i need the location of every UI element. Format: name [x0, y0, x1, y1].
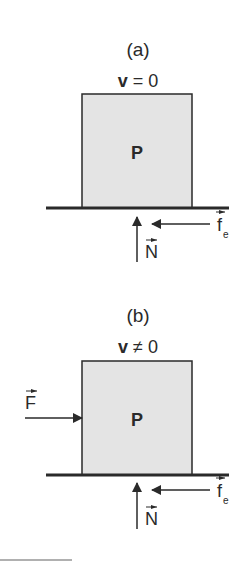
velocity-relation: ≠ 0	[128, 337, 158, 357]
svg-text:e: e	[223, 229, 229, 240]
panel-a-velocity-label: v = 0	[118, 71, 159, 91]
panel-b-velocity-label: v ≠ 0	[118, 337, 158, 357]
panel-b-caption: (b)	[126, 305, 149, 326]
normal-force-label: N	[145, 240, 158, 262]
svg-text:F: F	[25, 393, 36, 413]
svg-text:e: e	[223, 495, 229, 506]
svg-text:N: N	[145, 242, 158, 262]
block-label: P	[131, 143, 143, 163]
panel-a-caption: (a)	[126, 39, 149, 60]
velocity-symbol: v	[118, 71, 128, 91]
block-label: P	[131, 410, 143, 430]
panel-b: (b) v ≠ 0 P F N f e	[25, 305, 229, 529]
friction-force-label: f e	[216, 478, 229, 506]
velocity-symbol: v	[118, 337, 128, 357]
friction-force-label: f e	[216, 212, 229, 240]
panel-a: (a) v = 0 P N f e	[46, 39, 229, 262]
svg-text:N: N	[145, 509, 158, 529]
free-body-diagram: (a) v = 0 P N f e (b) v ≠ 0 P F	[0, 0, 247, 562]
velocity-relation: = 0	[128, 71, 159, 91]
applied-force-label: F	[25, 391, 37, 413]
normal-force-label: N	[145, 507, 158, 529]
